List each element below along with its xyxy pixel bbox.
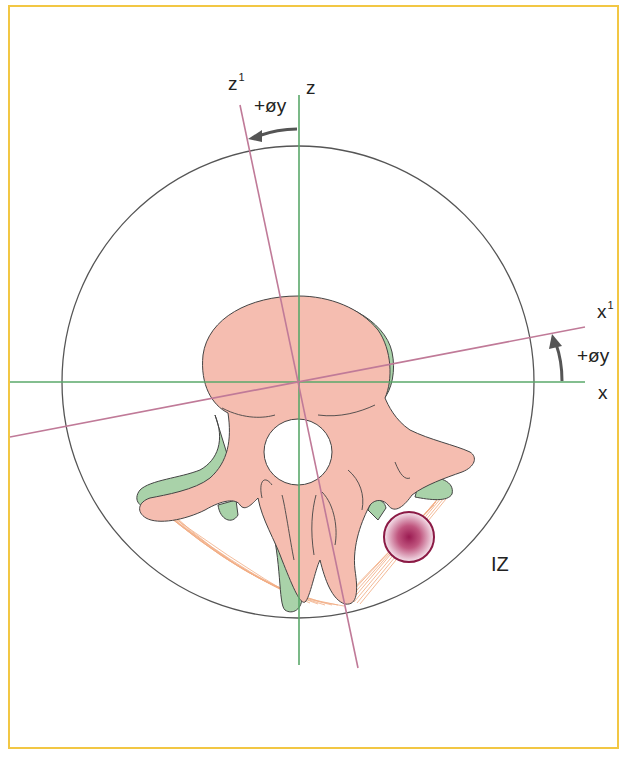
- vertebra-diagram: [0, 0, 630, 758]
- z-axis-label: z: [306, 78, 316, 97]
- x1-axis-label: x1: [597, 302, 614, 321]
- zone-label: IZ: [491, 554, 509, 574]
- spinal-canal: [264, 419, 332, 485]
- z-rotation-arrow-icon: [248, 129, 297, 142]
- x-rotation-label: +øy: [577, 346, 609, 365]
- z-rotation-label: +øy: [254, 96, 286, 115]
- x-axis-label: x: [598, 383, 608, 402]
- lesion-marker: [384, 512, 434, 562]
- z1-axis-label: z1: [228, 74, 245, 93]
- x-rotation-arrow-icon: [549, 334, 562, 381]
